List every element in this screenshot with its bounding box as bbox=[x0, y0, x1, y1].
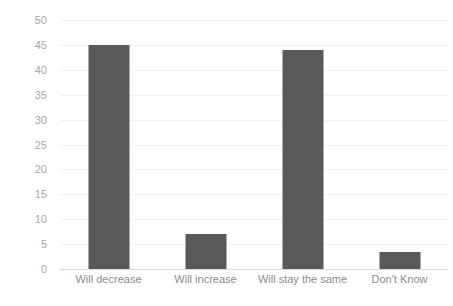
x-axis-category-label: Will decrease bbox=[75, 274, 141, 285]
bar-slot bbox=[60, 20, 157, 269]
bar-chart: 05101520253035404550 Will decreaseWill i… bbox=[0, 0, 453, 306]
y-axis-tick-label: 15 bbox=[3, 189, 47, 200]
x-axis-category-label: Will increase bbox=[174, 274, 236, 285]
bar-slot bbox=[351, 20, 448, 269]
bar-slot bbox=[254, 20, 351, 269]
x-axis-category-label: Don't Know bbox=[372, 274, 428, 285]
y-axis-tick-label: 5 bbox=[3, 239, 47, 250]
bar[interactable] bbox=[88, 45, 129, 269]
y-axis-tick-label: 20 bbox=[3, 164, 47, 175]
y-axis-tick-label: 25 bbox=[3, 139, 47, 150]
y-axis-tick-label: 45 bbox=[3, 39, 47, 50]
bar[interactable] bbox=[185, 234, 226, 269]
y-axis-tick-label: 40 bbox=[3, 64, 47, 75]
y-axis-tick-label: 10 bbox=[3, 214, 47, 225]
y-axis-tick-label: 0 bbox=[3, 264, 47, 275]
y-axis-tick-label: 35 bbox=[3, 89, 47, 100]
y-axis-tick-label: 50 bbox=[3, 15, 47, 26]
bar[interactable] bbox=[379, 252, 420, 269]
bars-layer bbox=[60, 20, 448, 269]
x-axis-labels: Will decreaseWill increaseWill stay the … bbox=[60, 274, 448, 298]
x-axis-line bbox=[60, 269, 448, 270]
x-axis-category-label: Will stay the same bbox=[258, 274, 347, 285]
bar[interactable] bbox=[282, 50, 323, 269]
y-axis-tick-label: 30 bbox=[3, 114, 47, 125]
bar-slot bbox=[157, 20, 254, 269]
